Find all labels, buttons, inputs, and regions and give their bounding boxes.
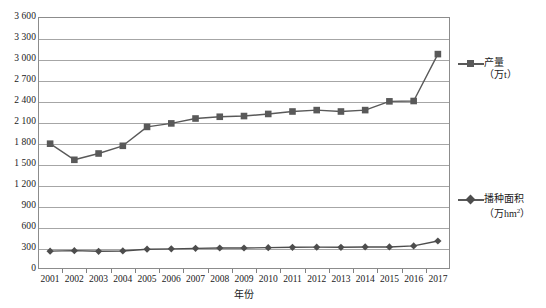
gridline <box>39 39 449 40</box>
y-axis-tick-label: 1 200 <box>2 180 36 190</box>
legend-marker-diamond-icon <box>458 194 484 205</box>
y-axis-tick-label: 3 000 <box>2 54 36 64</box>
gridline <box>39 81 449 82</box>
y-axis-tick-label: 0 <box>2 264 36 274</box>
x-axis-tick <box>377 269 378 273</box>
y-axis-labels: 03006009001 2001 5001 8002 1002 4002 700… <box>0 0 36 308</box>
x-axis-tick <box>232 269 233 273</box>
y-axis-tick-label: 3 600 <box>2 12 36 22</box>
gridline <box>39 123 449 124</box>
y-axis-tick-label: 2 100 <box>2 117 36 127</box>
y-axis-tick-label: 300 <box>2 243 36 253</box>
legend-item-yield: 产量 （万t） <box>458 57 517 81</box>
x-axis-title: 年份 <box>38 290 450 300</box>
x-axis-tick <box>280 269 281 273</box>
legend-label-sown-area: 播种面积 （万hm2） <box>484 193 530 220</box>
x-axis-tick <box>426 269 427 273</box>
gridline <box>39 249 449 250</box>
x-axis-tick <box>159 269 160 273</box>
gridline <box>39 207 449 208</box>
gridline <box>39 60 449 61</box>
gridline <box>39 228 449 229</box>
y-axis-tick-label: 1 500 <box>2 159 36 169</box>
y-axis-tick-label: 2 700 <box>2 75 36 85</box>
legend-label-sown-area-name: 播种面积 <box>484 193 524 204</box>
y-axis-tick-label: 600 <box>2 222 36 232</box>
legend-marker-square-icon <box>458 58 484 69</box>
x-axis-tick <box>402 269 403 273</box>
x-axis-tick <box>135 269 136 273</box>
y-axis-tick-label: 2 400 <box>2 96 36 106</box>
legend-label-yield-unit: （万t） <box>484 69 517 81</box>
legend-label-yield-name: 产量 <box>484 57 504 68</box>
y-axis-tick-label: 1 800 <box>2 138 36 148</box>
gridline <box>39 102 449 103</box>
x-axis-tick <box>329 269 330 273</box>
x-axis-labels: 2001200220032004200520062007200820092010… <box>38 275 450 289</box>
x-axis-tick <box>256 269 257 273</box>
legend-label-yield: 产量 （万t） <box>484 57 517 81</box>
x-axis-tick <box>183 269 184 273</box>
plot-area <box>38 17 450 269</box>
y-axis-tick-label: 3 300 <box>2 33 36 43</box>
x-axis-tick <box>305 269 306 273</box>
x-axis-tick <box>208 269 209 273</box>
legend-item-sown-area: 播种面积 （万hm2） <box>458 193 530 220</box>
gridline <box>39 186 449 187</box>
x-axis-tick <box>62 269 63 273</box>
y-axis-tick-label: 900 <box>2 201 36 211</box>
x-axis-tick-label: 2017 <box>423 275 453 285</box>
x-axis-tick <box>111 269 112 273</box>
chart-screenshot: 03006009001 2001 5001 8002 1002 4002 700… <box>0 0 546 308</box>
gridline <box>39 165 449 166</box>
x-axis-tick <box>353 269 354 273</box>
x-axis-tick <box>86 269 87 273</box>
gridline <box>39 144 449 145</box>
legend-label-sown-area-unit: （万hm2） <box>484 205 530 220</box>
